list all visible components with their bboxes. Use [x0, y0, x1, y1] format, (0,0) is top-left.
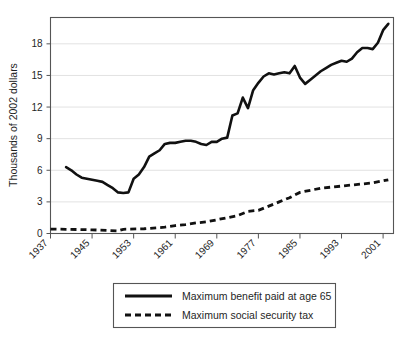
y-tick-label: 18 [31, 38, 43, 49]
y-tick-label: 9 [37, 133, 43, 144]
legend-label-maximum-benefit: Maximum benefit paid at age 65 [182, 290, 332, 302]
chart-legend: Maximum benefit paid at age 65 Maximum s… [114, 284, 336, 328]
y-tick-label: 3 [37, 196, 43, 207]
y-tick-label: 12 [31, 102, 43, 113]
y-tick-label: 15 [31, 70, 43, 81]
y-tick-label: 6 [37, 165, 43, 176]
y-axis-title: Thousands of 2002 dollars [7, 63, 19, 187]
chart-figure: 0369121518 19371945195319611969197719851… [0, 0, 414, 338]
legend-label-maximum-tax: Maximum social security tax [182, 309, 314, 321]
line-chart: 0369121518 19371945195319611969197719851… [0, 0, 414, 338]
